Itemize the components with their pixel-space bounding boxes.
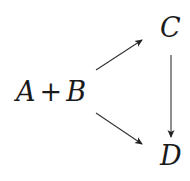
- reaction-diagram: A+B C D: [0, 0, 190, 181]
- arrow-to-c-icon: [96, 40, 142, 70]
- arrows-layer: [0, 0, 190, 181]
- arrow-to-d-icon: [96, 113, 142, 144]
